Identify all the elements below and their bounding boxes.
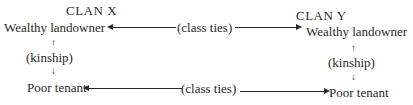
bottom-class-ties-label: (class ties) (181, 82, 236, 96)
clan-x-down-arrow-icon: ↓ (51, 66, 56, 76)
clan-y-wealthy-landowner: Wealthy landowner (306, 25, 407, 39)
clan-x-kinship-label: (kinship) (26, 51, 73, 65)
clan-x-poor-tenant: Poor tenant (27, 81, 87, 95)
top-class-ties-label: (class ties) (177, 21, 232, 35)
clan-y-kinship-label: (kinship) (328, 56, 375, 70)
clan-y-up-arrow-icon: ↑ (351, 43, 356, 53)
clan-x-wealthy-landowner: Wealthy landowner (4, 21, 105, 35)
clan-x-up-arrow-icon: ↑ (51, 38, 56, 48)
bottom-right-arrow-icon (240, 91, 326, 92)
bottom-left-arrow-icon (87, 88, 182, 89)
top-right-arrow-icon (235, 27, 298, 28)
clan-y-down-arrow-icon: ↓ (351, 72, 356, 82)
clan-y-title: CLAN Y (296, 9, 347, 23)
clan-x-title: CLAN X (66, 4, 117, 18)
clan-y-poor-tenant: Poor tenant (329, 86, 389, 100)
top-left-arrow-icon (111, 27, 176, 28)
